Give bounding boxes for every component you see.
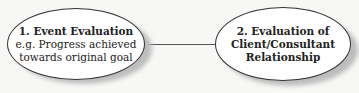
node-2-line-3: Relationship xyxy=(246,51,321,64)
node-1-title: 1. Event Evaluation xyxy=(19,25,133,38)
node-2-line-1: 2. Evaluation of xyxy=(237,25,330,38)
connector-line xyxy=(143,44,217,45)
node-1-line-1: e.g. Progress achieved xyxy=(16,38,137,51)
node-1-line-2: towards original goal xyxy=(19,51,132,64)
node-client-consultant-relationship: 2. Evaluation of Client/Consultant Relat… xyxy=(215,7,351,81)
node-2-line-2: Client/Consultant xyxy=(231,38,335,51)
node-event-evaluation: 1. Event Evaluation e.g. Progress achiev… xyxy=(7,8,145,80)
